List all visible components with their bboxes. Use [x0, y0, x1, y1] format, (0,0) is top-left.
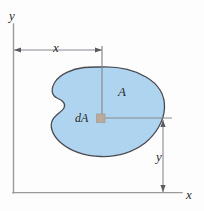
y-dimension-arrow-bottom — [160, 185, 165, 192]
area-label: A — [118, 85, 126, 98]
y-axis-label: y — [9, 9, 15, 22]
x-dimension-arrow-left — [14, 47, 21, 52]
diagram-canvas — [0, 0, 204, 211]
x-axis-label: x — [186, 188, 192, 201]
plane-area-shape — [51, 67, 164, 157]
figure-area-element-diagram: y x x y A dA — [0, 0, 204, 211]
area-element-marker — [97, 114, 106, 123]
x-dimension-label: x — [53, 41, 59, 54]
y-dimension-label: y — [156, 150, 162, 163]
area-element-label: dA — [75, 112, 88, 124]
x-dimension-arrow-right — [95, 47, 102, 52]
